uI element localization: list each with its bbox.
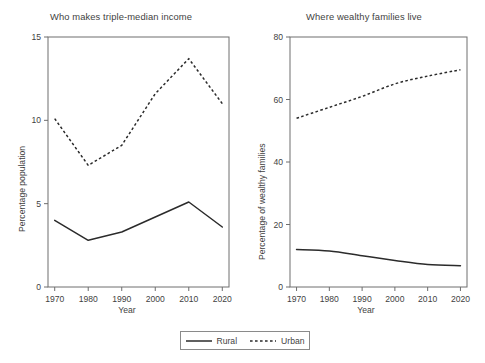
y-axis-label-left: Percentage population <box>17 146 27 232</box>
y-tick-label: 15 <box>31 32 41 42</box>
y-axis-label-right: Percentage of wealthy families <box>257 143 267 260</box>
y-tick-label: 60 <box>273 95 283 105</box>
x-tick-label: 2020 <box>213 294 232 304</box>
legend-label-rural: Rural <box>217 336 238 346</box>
x-axis-label-right: Year <box>245 305 485 315</box>
series-line-rural <box>55 202 223 240</box>
chart-panel-right: Where wealthy families live 020406080197… <box>243 0 485 320</box>
x-tick-label: 1990 <box>353 294 372 304</box>
solid-line-icon <box>186 338 212 344</box>
series-line-urban <box>297 70 461 118</box>
series-line-urban <box>55 59 223 166</box>
plot-frame <box>48 37 229 287</box>
x-tick-label: 1970 <box>287 294 306 304</box>
plot-area-right: 020406080197019801990200020102020 <box>243 0 485 320</box>
dashed-line-icon <box>250 338 276 344</box>
legend-entry-urban: Urban <box>250 336 304 346</box>
y-tick-label: 0 <box>278 282 283 292</box>
chart-panel-left: Who makes triple-median income 051015197… <box>0 0 242 320</box>
legend-entry-rural: Rural <box>186 336 238 346</box>
x-tick-label: 1990 <box>112 294 131 304</box>
x-tick-label: 1980 <box>79 294 98 304</box>
x-tick-label: 2000 <box>385 294 404 304</box>
y-tick-label: 5 <box>36 199 41 209</box>
y-tick-label: 0 <box>36 282 41 292</box>
figure-root: Who makes triple-median income 051015197… <box>0 0 485 363</box>
x-tick-label: 1970 <box>45 294 64 304</box>
x-tick-label: 2020 <box>451 294 470 304</box>
chart-legend: Rural Urban <box>180 331 310 350</box>
y-tick-label: 10 <box>31 115 41 125</box>
plot-area-left: 051015197019801990200020102020 <box>0 0 242 320</box>
y-tick-label: 40 <box>273 157 283 167</box>
x-tick-label: 1980 <box>320 294 339 304</box>
x-axis-label-left: Year <box>6 305 248 315</box>
series-line-rural <box>297 250 461 266</box>
y-tick-label: 20 <box>273 220 283 230</box>
legend-label-urban: Urban <box>281 336 304 346</box>
x-tick-label: 2010 <box>418 294 437 304</box>
x-tick-label: 2000 <box>146 294 165 304</box>
y-tick-label: 80 <box>273 32 283 42</box>
x-tick-label: 2010 <box>179 294 198 304</box>
